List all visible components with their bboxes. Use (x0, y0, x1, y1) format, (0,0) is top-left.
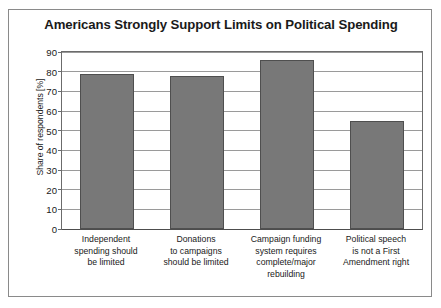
x-axis-category-labels: Independentspending shouldbe limitedDona… (61, 234, 423, 294)
y-tick-label: 60 (46, 106, 57, 117)
bar (170, 76, 224, 229)
y-tick-mark (58, 111, 62, 112)
chart-title: Americans Strongly Support Limits on Pol… (19, 17, 423, 32)
x-category-label-line: spending should (61, 246, 151, 258)
bar (80, 74, 134, 229)
y-tick-mark (58, 71, 62, 72)
x-category-label-line: should be limited (151, 257, 241, 269)
x-category-label-line: Donations (151, 234, 241, 246)
x-category-label-line: Amendment right (331, 257, 421, 269)
x-category-label-line: complete/major (241, 257, 331, 269)
y-tick-label: 40 (46, 145, 57, 156)
y-tick-mark (58, 189, 62, 190)
chart-figure-frame: Americans Strongly Support Limits on Pol… (8, 9, 432, 297)
x-category-label-line: Political speech (331, 234, 421, 246)
x-category-label-line: is not a First (331, 246, 421, 258)
x-category-label: Campaign fundingsystem requirescomplete/… (241, 234, 331, 280)
y-tick-label: 20 (46, 184, 57, 195)
x-category-label-line: to campaigns (151, 246, 241, 258)
y-gridline (62, 71, 422, 72)
x-category-label-line: Campaign funding (241, 234, 331, 246)
x-category-label-line: rebuilding (241, 269, 331, 281)
y-tick-mark (58, 91, 62, 92)
y-tick-label: 50 (46, 125, 57, 136)
y-tick-label: 30 (46, 165, 57, 176)
y-tick-label: 70 (46, 86, 57, 97)
bar (350, 121, 404, 229)
y-tick-mark (58, 52, 62, 53)
y-tick-label: 80 (46, 66, 57, 77)
y-axis-title: Share of respondents [%] (35, 47, 45, 207)
y-tick-label: 0 (52, 224, 57, 235)
bar (260, 60, 314, 229)
x-category-label: Donationsto campaignsshould be limited (151, 234, 241, 269)
x-category-label-line: system requires (241, 246, 331, 258)
y-tick-mark (58, 170, 62, 171)
y-tick-mark (58, 209, 62, 210)
x-category-label-line: be limited (61, 257, 151, 269)
y-tick-mark (58, 229, 62, 230)
x-category-label-line: Independent (61, 234, 151, 246)
plot-area: 0102030405060708090 (61, 51, 423, 230)
y-gridline (62, 52, 422, 53)
x-category-label: Political speechis not a FirstAmendment … (331, 234, 421, 269)
y-tick-mark (58, 150, 62, 151)
x-category-label: Independentspending shouldbe limited (61, 234, 151, 269)
y-tick-mark (58, 130, 62, 131)
y-tick-label: 90 (46, 47, 57, 58)
y-tick-label: 10 (46, 204, 57, 215)
